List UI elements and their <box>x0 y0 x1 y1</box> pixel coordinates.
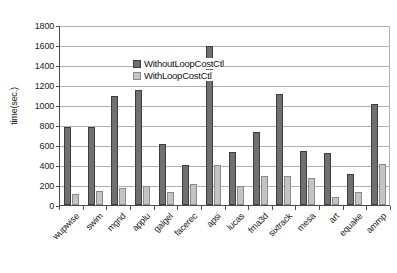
bar-groups <box>60 26 390 205</box>
bar[interactable] <box>347 174 354 205</box>
bar-group <box>225 26 249 205</box>
bar-group <box>272 26 296 205</box>
bar[interactable] <box>214 165 221 205</box>
bar[interactable] <box>64 127 71 205</box>
bar-group <box>107 26 131 205</box>
x-tick-label: mgrid <box>106 211 128 233</box>
bar-group <box>249 26 273 205</box>
bar-group <box>296 26 320 205</box>
bar[interactable] <box>119 188 126 205</box>
x-tick-label: facerec <box>172 211 199 238</box>
bar[interactable] <box>190 184 197 205</box>
bar[interactable] <box>135 90 142 205</box>
bar-group <box>60 26 84 205</box>
bar[interactable] <box>143 186 150 205</box>
x-tick-label: equake <box>337 211 364 238</box>
bar[interactable] <box>261 176 268 205</box>
bar[interactable] <box>111 96 118 205</box>
y-tick-label: 1000 <box>35 101 54 111</box>
bar-group <box>201 26 225 205</box>
x-tick-label: lucas <box>225 211 246 232</box>
bar[interactable] <box>276 94 283 205</box>
x-tick-label: mesa <box>295 211 317 233</box>
bar[interactable] <box>229 152 236 205</box>
x-tick-label: apsi <box>204 211 222 229</box>
x-tick-label: applu <box>130 211 152 233</box>
bar[interactable] <box>379 164 386 205</box>
bar[interactable] <box>300 151 307 205</box>
bar[interactable] <box>371 104 378 205</box>
bar[interactable] <box>96 191 103 205</box>
bar-group <box>343 26 367 205</box>
bar[interactable] <box>308 178 315 205</box>
y-tick-label: 200 <box>40 181 54 191</box>
y-tick-label: 1800 <box>35 21 54 31</box>
plot-area: WithoutLoopCostCtl WithLoopCostCtl <box>59 26 390 206</box>
bar[interactable] <box>324 153 331 205</box>
bar-group <box>154 26 178 205</box>
legend-item-1[interactable]: WithLoopCostCtl <box>133 70 224 81</box>
bar-group <box>84 26 108 205</box>
bar[interactable] <box>88 127 95 205</box>
bar-chart-figure: time(sec.) 18001600140012001000800600400… <box>0 0 397 273</box>
chart-legend: WithoutLoopCostCtl WithLoopCostCtl <box>133 58 224 81</box>
bar[interactable] <box>182 165 189 205</box>
x-axis-category-labels: wupwiseswimmgridapplugalgelfacerecapsilu… <box>59 209 390 271</box>
bar[interactable] <box>253 132 260 205</box>
legend-label-1: WithLoopCostCtl <box>144 70 212 81</box>
bar[interactable] <box>72 194 79 205</box>
bar[interactable] <box>332 197 339 205</box>
series-0-swatch <box>133 60 141 68</box>
x-tick-mark <box>390 206 391 210</box>
legend-item-0[interactable]: WithoutLoopCostCtl <box>133 58 224 69</box>
y-tick-label: 800 <box>40 121 54 131</box>
bar[interactable] <box>167 192 174 205</box>
series-1-swatch <box>133 72 141 80</box>
x-tick-label: swim <box>83 211 104 232</box>
x-tick-label: art <box>327 211 341 225</box>
bar-group <box>367 26 391 205</box>
x-tick-label: ammp <box>364 211 388 235</box>
y-tick-label: 1600 <box>35 41 54 51</box>
bar[interactable] <box>284 176 291 205</box>
bar-group <box>319 26 343 205</box>
y-tick-label: 0 <box>49 201 54 211</box>
x-tick-label: sixtrack <box>266 211 294 239</box>
y-axis-tick-labels: 180016001400120010008006004002000 <box>20 0 56 273</box>
bar[interactable] <box>355 192 362 205</box>
bar[interactable] <box>159 144 166 205</box>
y-tick-label: 400 <box>40 161 54 171</box>
bar-group <box>178 26 202 205</box>
y-tick-label: 1400 <box>35 61 54 71</box>
y-tick-label: 600 <box>40 141 54 151</box>
bar-group <box>131 26 155 205</box>
y-axis-title: time(sec.) <box>9 71 19 141</box>
legend-label-0: WithoutLoopCostCtl <box>144 58 224 69</box>
bar[interactable] <box>237 186 244 205</box>
y-tick-label: 1200 <box>35 81 54 91</box>
